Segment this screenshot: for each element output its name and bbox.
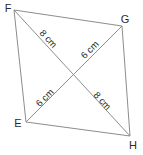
- measurement-centre-H: 8 cm: [92, 89, 114, 112]
- vertex-label-F: F: [5, 2, 12, 14]
- geometry-diagram: F G H E 8 cm 6 cm 6 cm 8 cm: [0, 0, 143, 155]
- diagonals: [14, 10, 130, 136]
- side-FG: [14, 10, 122, 26]
- vertex-label-G: G: [121, 13, 130, 25]
- vertex-label-H: H: [129, 139, 137, 151]
- side-GH: [122, 26, 130, 136]
- quadrilateral-figure: F G H E 8 cm 6 cm 6 cm 8 cm: [0, 0, 143, 155]
- measurement-G-centre: 6 cm: [78, 38, 100, 60]
- side-HE: [26, 122, 130, 136]
- vertex-label-E: E: [14, 117, 21, 129]
- side-EF: [14, 10, 26, 122]
- measurement-labels: 8 cm 6 cm 6 cm 8 cm: [33, 27, 113, 112]
- measurement-E-centre: 6 cm: [33, 86, 55, 108]
